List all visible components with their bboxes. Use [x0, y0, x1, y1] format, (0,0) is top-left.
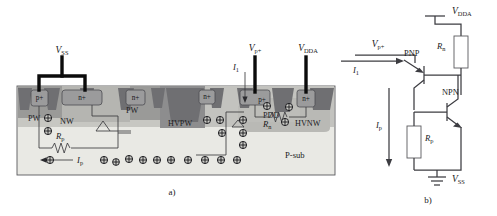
diffusion-label: n+	[302, 95, 310, 103]
well-label-nw: NW	[60, 117, 74, 126]
resistor-rn-box	[454, 36, 468, 68]
resistor-label-rp-circuit: Rp	[424, 133, 433, 144]
panel-a-cross-section: p+ n+ n+ n+ p+ n+ PW NW PW HVPW PDD HVNW…	[17, 43, 335, 197]
panel-b-caption: b)	[424, 195, 432, 205]
diffusion-label: n+	[203, 93, 211, 101]
wire-bottom-rail	[414, 162, 461, 170]
panel-a-caption: a)	[169, 187, 176, 197]
terminal-label-vss: VSS	[56, 45, 69, 56]
current-label-i1-circuit: I1	[352, 65, 359, 76]
transistor-pnp: PNP	[404, 49, 461, 110]
well-label-hvnw: HVNW	[295, 119, 321, 128]
well-label-pw-mid: PW	[126, 106, 139, 115]
node-label-vp: Vp+	[372, 39, 385, 50]
resistor-rp-box	[407, 126, 421, 158]
current-label-i1: I1	[232, 62, 239, 73]
node-label-vss: VSS	[452, 174, 465, 185]
figure-root: p+ n+ n+ n+ p+ n+ PW NW PW HVPW PDD HVNW…	[0, 0, 497, 216]
transistor-label-npn: NPN	[442, 88, 459, 97]
terminal-label-vp: Vp+	[249, 43, 262, 54]
terminal-label-vdda: VDDA	[298, 43, 318, 54]
wire-vdda-drop	[435, 16, 461, 36]
arrow-i1	[396, 58, 404, 64]
well-label-hvpw: HVPW	[168, 119, 192, 128]
terminal-labels: VSS Vp+ VDDA	[56, 43, 319, 56]
ground-symbol	[428, 177, 446, 185]
resistor-label-rn-circuit: Rn	[436, 41, 446, 52]
substrate-label: P-sub	[285, 150, 305, 160]
transistor-label-pnp: PNP	[404, 49, 420, 58]
current-label-ip-circuit: Ip	[375, 120, 382, 131]
panel-b-circuit: VDDA Rn Vp+ I1 PNP	[341, 6, 472, 205]
current-ip-circuit: Ip	[375, 88, 392, 167]
diffusion-label: n+	[78, 94, 86, 102]
diffusion-label: p+	[36, 94, 44, 102]
node-label-vdda: VDDA	[452, 6, 472, 17]
diffusion-label: n+	[132, 94, 140, 102]
figure-svg: p+ n+ n+ n+ p+ n+ PW NW PW HVPW PDD HVNW…	[0, 0, 497, 216]
